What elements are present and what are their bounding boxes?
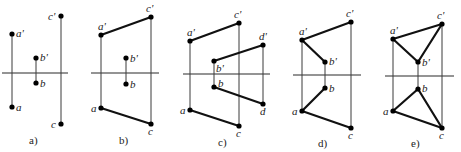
point-marker — [348, 19, 353, 24]
panel-a: a'ab'bc'ca) — [2, 10, 68, 147]
point-marker — [260, 42, 265, 47]
point-label: a' — [299, 25, 308, 37]
panel-caption: b) — [119, 134, 129, 147]
point-label: b' — [422, 56, 431, 68]
line-segment — [101, 17, 151, 35]
point-label: b' — [329, 55, 338, 67]
point-label: a' — [187, 26, 196, 38]
line-segment — [190, 110, 239, 126]
point-label: b' — [130, 52, 139, 64]
point-label: d' — [259, 30, 268, 42]
point-marker — [415, 59, 420, 64]
line-segment — [190, 23, 239, 41]
figure-canvas: a'ab'bc'ca)a'ab'bc'cb)a'ab'bc'cd'dc)a'ab… — [0, 0, 461, 152]
point-label: b — [329, 82, 335, 94]
point-marker — [390, 36, 395, 41]
point-label: b — [40, 77, 46, 89]
point-label: c — [439, 129, 444, 141]
point-label: a' — [98, 20, 107, 32]
line-segment — [101, 108, 151, 124]
point-label: b' — [40, 51, 49, 63]
panel-caption: e) — [411, 137, 420, 150]
point-label: c — [348, 129, 353, 141]
point-label: b — [218, 77, 224, 89]
point-label: c' — [234, 8, 242, 20]
point-label: c — [236, 127, 241, 139]
point-marker — [123, 55, 128, 60]
line-segment — [418, 89, 442, 128]
panel-c: a'ab'bc'cd'dc) — [180, 8, 270, 149]
line-segment — [393, 39, 418, 62]
point-label: a' — [16, 27, 25, 39]
panel-caption: a) — [29, 134, 38, 147]
point-marker — [415, 86, 420, 91]
point-marker — [299, 37, 304, 42]
point-marker — [211, 84, 216, 89]
point-marker — [299, 108, 304, 113]
point-marker — [322, 59, 327, 64]
line-segment — [393, 111, 442, 128]
panel-b: a'ab'bc'cb) — [91, 2, 159, 147]
point-marker — [98, 105, 103, 110]
panel-e: a'ab'bc'ce) — [383, 9, 454, 150]
point-label: c' — [437, 9, 445, 21]
point-label: a — [91, 102, 97, 114]
panel-caption: c) — [218, 136, 227, 149]
point-marker — [9, 31, 14, 36]
point-label: b' — [216, 62, 225, 74]
point-marker — [187, 107, 192, 112]
point-marker — [148, 14, 153, 19]
point-label: c — [148, 125, 153, 137]
panel-caption: d) — [318, 137, 328, 150]
point-label: d — [260, 105, 266, 117]
point-marker — [58, 13, 63, 18]
point-label: a' — [390, 24, 399, 36]
point-marker — [123, 81, 128, 86]
point-label: c' — [48, 10, 56, 22]
point-label: a — [383, 105, 389, 117]
point-marker — [322, 85, 327, 90]
line-segment — [302, 111, 351, 128]
point-marker — [390, 108, 395, 113]
point-marker — [187, 38, 192, 43]
point-label: c — [51, 118, 56, 130]
projection-diagram: a'ab'bc'ca)a'ab'bc'cb)a'ab'bc'cd'dc)a'ab… — [0, 0, 461, 152]
point-label: b — [422, 82, 428, 94]
point-marker — [9, 104, 14, 109]
line-segment — [302, 88, 325, 111]
point-marker — [33, 55, 38, 60]
panel-d: a'ab'bc'cd) — [292, 7, 361, 150]
point-label: a — [180, 104, 186, 116]
line-segment — [393, 89, 418, 111]
point-label: a — [16, 101, 22, 113]
point-label: c' — [346, 7, 354, 19]
point-marker — [439, 21, 444, 26]
point-label: a — [292, 105, 298, 117]
point-label: b — [130, 78, 136, 90]
point-marker — [58, 121, 63, 126]
point-marker — [98, 32, 103, 37]
point-marker — [236, 20, 241, 25]
point-marker — [33, 80, 38, 85]
point-label: c' — [146, 2, 154, 14]
line-segment — [302, 22, 351, 40]
line-segment — [302, 40, 325, 62]
